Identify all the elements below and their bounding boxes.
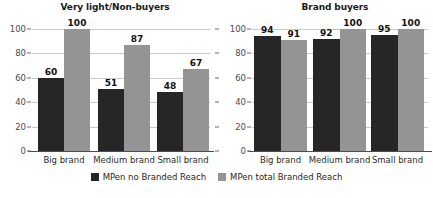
bar-value-label: 100 bbox=[68, 18, 87, 28]
y-axis-outer-tick-mark-60 bbox=[215, 77, 219, 78]
bar: 91 bbox=[281, 40, 308, 151]
bar-value-label: 92 bbox=[320, 28, 333, 38]
x-axis-line-right bbox=[248, 151, 432, 152]
bar-group-medium-brand: 5187Medium brand bbox=[98, 29, 150, 151]
bar-value-label: 51 bbox=[105, 78, 118, 88]
y-axis-outer-tick-mark-100 bbox=[215, 29, 219, 30]
y-axis-tick-label-100: 100 bbox=[10, 24, 26, 34]
y-axis-tick-label-80: 80 bbox=[15, 48, 26, 58]
y-axis-tick-label-40: 40 bbox=[15, 97, 26, 107]
legend-item-0: MPen no Branded Reach bbox=[91, 172, 206, 182]
y-axis-tick-label-100: 100 bbox=[230, 24, 246, 34]
chart-title-right: Brand buyers bbox=[215, 2, 433, 12]
bar: 94 bbox=[254, 36, 281, 151]
x-axis-category-label: Medium brand bbox=[93, 155, 155, 165]
y-axis-tick-mark-60 bbox=[247, 77, 251, 78]
chart-title-left: Very light/Non-buyers bbox=[0, 2, 212, 12]
bar: 100 bbox=[64, 29, 90, 151]
x-axis-category-label: Small brand bbox=[157, 155, 208, 165]
bar-value-label: 100 bbox=[401, 18, 420, 28]
plot-area-left: 02040608010060100Big brand5187Medium bra… bbox=[32, 29, 210, 151]
y-axis-tick-mark-60 bbox=[27, 77, 31, 78]
y-axis-tick-label-0: 0 bbox=[21, 146, 26, 156]
bar-value-label: 48 bbox=[164, 81, 177, 91]
bar: 60 bbox=[38, 78, 64, 151]
y-axis-outer-tick-mark-20 bbox=[215, 126, 219, 127]
bar: 51 bbox=[98, 89, 124, 151]
bar-value-label: 94 bbox=[261, 25, 274, 35]
charts-container: Very light/Non-buyers 02040608010060100B… bbox=[0, 0, 433, 170]
y-axis-outer-tick-mark-40 bbox=[215, 102, 219, 103]
bar-value-label: 67 bbox=[190, 58, 203, 68]
bar: 92 bbox=[313, 39, 340, 151]
bar: 67 bbox=[183, 69, 209, 151]
chart-panel-very-light-non-buyers: Very light/Non-buyers 02040608010060100B… bbox=[0, 0, 212, 170]
bar: 48 bbox=[157, 92, 183, 151]
legend-swatch-icon-gray bbox=[218, 173, 226, 181]
y-axis-outer-tick-mark-80 bbox=[215, 53, 219, 54]
x-axis-line-left bbox=[28, 151, 214, 152]
chart-legend: MPen no Branded Reach MPen total Branded… bbox=[0, 172, 433, 192]
y-axis-tick-mark-20 bbox=[247, 126, 251, 127]
bar-group-big-brand: 9491Big brand bbox=[254, 29, 307, 151]
legend-item-1: MPen total Branded Reach bbox=[218, 172, 342, 182]
y-axis-tick-mark-40 bbox=[27, 102, 31, 103]
y-axis-outer-tick-mark-0 bbox=[215, 151, 219, 152]
y-axis-tick-mark-100 bbox=[27, 29, 31, 30]
y-axis-tick-label-60: 60 bbox=[15, 73, 26, 83]
legend-label-0: MPen no Branded Reach bbox=[103, 172, 206, 182]
bar-group-big-brand: 60100Big brand bbox=[38, 29, 90, 151]
bar: 100 bbox=[398, 29, 425, 151]
y-axis-tick-label-60: 60 bbox=[235, 73, 246, 83]
x-axis-category-label: Big brand bbox=[43, 155, 84, 165]
plot-area-right: 0204060801009491Big brand92100Medium bra… bbox=[252, 29, 428, 151]
bar-value-label: 95 bbox=[378, 24, 391, 34]
bar-value-label: 100 bbox=[343, 18, 362, 28]
legend-label-1: MPen total Branded Reach bbox=[230, 172, 342, 182]
y-axis-tick-mark-20 bbox=[27, 126, 31, 127]
x-axis-category-label: Small brand bbox=[372, 155, 423, 165]
chart-panel-brand-buyers: Brand buyers 0204060801009491Big brand92… bbox=[215, 0, 433, 170]
y-axis-tick-label-0: 0 bbox=[241, 146, 246, 156]
bar-value-label: 60 bbox=[45, 67, 58, 77]
bar-value-label: 87 bbox=[131, 34, 144, 44]
bar-value-label: 91 bbox=[287, 29, 300, 39]
y-axis-tick-label-20: 20 bbox=[235, 122, 246, 132]
bar-group-medium-brand: 92100Medium brand bbox=[313, 29, 366, 151]
y-axis-tick-mark-80 bbox=[247, 53, 251, 54]
y-axis-tick-label-80: 80 bbox=[235, 48, 246, 58]
y-axis-tick-mark-100 bbox=[247, 29, 251, 30]
x-axis-category-label: Medium brand bbox=[309, 155, 371, 165]
legend-swatch-icon-dark bbox=[91, 173, 99, 181]
y-axis-tick-label-40: 40 bbox=[235, 97, 246, 107]
bar: 95 bbox=[371, 35, 398, 151]
y-axis-tick-mark-0 bbox=[247, 151, 251, 152]
y-axis-tick-label-20: 20 bbox=[15, 122, 26, 132]
y-axis-tick-mark-40 bbox=[247, 102, 251, 103]
y-axis-tick-mark-80 bbox=[27, 53, 31, 54]
y-axis-tick-mark-0 bbox=[27, 151, 31, 152]
x-axis-category-label: Big brand bbox=[260, 155, 301, 165]
bar-group-small-brand: 95100Small brand bbox=[371, 29, 424, 151]
bar: 87 bbox=[124, 45, 150, 151]
bar: 100 bbox=[340, 29, 367, 151]
bar-group-small-brand: 4867Small brand bbox=[157, 29, 209, 151]
